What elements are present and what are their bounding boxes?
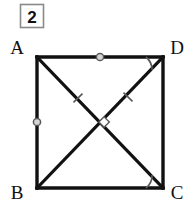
vertex-label-C: C [171,182,184,203]
problem-number-badge: 2 [21,5,44,28]
vertex-label-D: D [170,37,184,58]
problem-number-label: 2 [27,8,36,27]
geometry-figure-canvas: 2 A D B C [0,0,191,216]
vertex-label-A: A [10,37,24,58]
circle-mark-on-side-AB [33,118,40,125]
circle-mark-on-side-AD [96,53,103,60]
vertex-label-B: B [11,182,24,203]
geometry-diagram: 2 A D B C [0,0,191,216]
